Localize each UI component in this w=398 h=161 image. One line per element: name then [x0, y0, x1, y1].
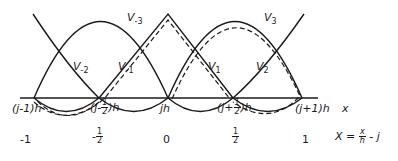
- label-v-3: V3: [264, 11, 277, 26]
- X-tick-minus-1: -1: [20, 133, 31, 146]
- X-tick-one: 1: [302, 133, 309, 146]
- label-v-1: V1: [208, 60, 221, 75]
- X-tick-zero: 0: [163, 133, 170, 146]
- curve-v-minus3: [34, 22, 168, 99]
- label-v-minus3: V-3: [127, 11, 143, 26]
- X-formula: X = xh - j: [335, 128, 380, 145]
- tick-jh: jh: [160, 102, 170, 115]
- tick-j-plus-1: (j+1)h: [295, 102, 330, 115]
- X-tick-minus-half: -12: [92, 128, 103, 145]
- tick-j-minus-1: (j-1)h: [12, 102, 42, 115]
- x-axis-label: x: [342, 102, 349, 115]
- tick-j-minus-half: (j-12)h: [90, 99, 120, 116]
- label-v-2: V2: [256, 60, 269, 75]
- label-v-minus2: V-2: [73, 60, 89, 75]
- tick-j-plus-half: (j+12)h: [217, 99, 252, 116]
- curve-v-3: [168, 22, 302, 99]
- X-tick-half: 12: [232, 128, 239, 145]
- label-v-minus1: V-1: [118, 60, 134, 75]
